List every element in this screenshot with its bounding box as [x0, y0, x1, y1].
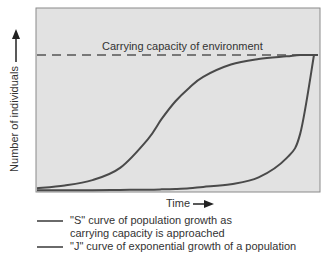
legend-item-s-curve: "S" curve of population growth as carryi… — [37, 214, 320, 240]
y-axis-label-text: Number of individuals — [8, 66, 20, 172]
x-axis-label: Time — [166, 197, 190, 209]
legend: "S" curve of population growth as carryi… — [37, 214, 320, 253]
legend-label-j: "J" curve of exponential growth of a pop… — [70, 240, 320, 253]
plot-area — [36, 8, 320, 192]
y-axis-label: Number of individuals — [4, 20, 24, 190]
x-axis-arrow-icon — [204, 200, 214, 208]
legend-item-j-curve: "J" curve of exponential growth of a pop… — [37, 240, 320, 253]
carrying-capacity-label: Carrying capacity of environment — [102, 40, 263, 52]
legend-label-s: "S" curve of population growth as carryi… — [70, 214, 270, 240]
legend-swatch-j — [37, 246, 63, 248]
legend-swatch-s — [37, 220, 63, 222]
